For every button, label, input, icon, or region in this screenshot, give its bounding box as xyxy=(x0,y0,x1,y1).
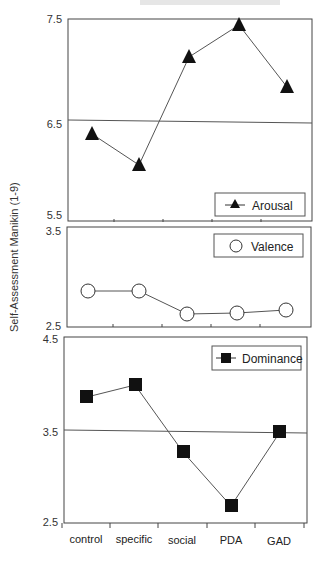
arousal-gridline xyxy=(68,120,312,123)
valence-point-specific xyxy=(132,284,146,298)
arousal-point-social xyxy=(182,49,196,63)
dominance-panel: 4.5 3.5 2.5 Dominance xyxy=(43,333,307,528)
valence-legend-label: Valence xyxy=(251,240,294,254)
dominance-point-gad xyxy=(273,425,286,438)
dominance-tick-max: 4.5 xyxy=(43,333,58,345)
sam-chart: Self-Assessment Manikin (1-9) 7.5 6.5 5.… xyxy=(0,0,328,564)
dominance-tick-min: 2.5 xyxy=(43,516,58,528)
dominance-markers xyxy=(80,378,286,512)
dominance-legend: Dominance xyxy=(212,346,303,370)
valence-legend: Valence xyxy=(214,234,303,257)
dominance-point-social xyxy=(177,445,190,458)
dominance-point-specific xyxy=(129,378,142,391)
arousal-legend-label: Arousal xyxy=(252,199,293,213)
category-pda: PDA xyxy=(220,534,243,546)
valence-point-control xyxy=(81,284,95,298)
category-control: control xyxy=(69,533,102,545)
arousal-markers xyxy=(85,17,294,171)
dominance-tick-mid: 3.5 xyxy=(43,426,58,438)
valence-tick-min: 2.5 xyxy=(46,320,61,332)
valence-panel: 3.5 2.5 Valence xyxy=(46,225,311,332)
y-axis-label: Self-Assessment Manikin (1-9) xyxy=(8,182,20,332)
dominance-x-ticks xyxy=(62,523,304,528)
dominance-legend-label: Dominance xyxy=(242,352,303,366)
valence-point-pda xyxy=(230,306,244,320)
arousal-tick-min: 5.5 xyxy=(47,209,62,221)
arousal-point-control xyxy=(85,126,99,140)
arousal-panel: 7.5 6.5 5.5 Arousal xyxy=(47,13,312,222)
valence-point-social xyxy=(180,307,194,321)
arousal-point-specific xyxy=(132,157,146,171)
dominance-point-pda xyxy=(225,499,238,512)
category-specific: specific xyxy=(116,533,153,545)
cropped-title xyxy=(140,0,280,5)
dominance-gridline xyxy=(64,430,307,433)
arousal-line xyxy=(92,25,287,165)
valence-tick-max: 3.5 xyxy=(46,225,61,237)
valence-markers xyxy=(81,284,293,321)
dominance-point-control xyxy=(80,390,93,403)
category-gad: GAD xyxy=(267,535,291,547)
category-social: social xyxy=(168,534,196,546)
valence-point-gad xyxy=(279,303,293,317)
square-icon xyxy=(221,353,231,363)
arousal-legend: Arousal xyxy=(215,193,305,216)
circle-icon xyxy=(230,240,242,252)
arousal-tick-max: 7.5 xyxy=(47,13,62,25)
x-axis-categories: control specific social PDA GAD xyxy=(69,533,290,547)
arousal-tick-mid: 6.5 xyxy=(47,118,62,130)
